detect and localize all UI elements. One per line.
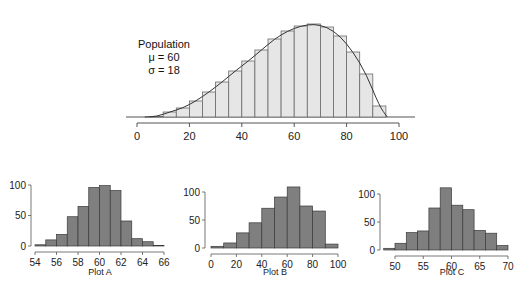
histogram-bar (153, 245, 164, 246)
population-bar (320, 27, 333, 117)
population-bar (229, 71, 242, 117)
y-tick-label: 100 (183, 187, 200, 198)
histogram-bar (211, 246, 224, 248)
population-bar (203, 92, 216, 117)
histogram-bar (429, 208, 440, 250)
histogram-bar (485, 233, 496, 250)
x-tick-label: 80 (307, 259, 319, 270)
population-bar (216, 82, 229, 117)
population-bar (334, 36, 347, 117)
histogram-bar (57, 234, 68, 246)
histogram-bar (67, 217, 78, 246)
histogram-bar (313, 211, 326, 248)
x-tick-label: 40 (236, 130, 248, 142)
histogram-bar (325, 244, 338, 248)
plot-a: 05010054565860626466 (9, 180, 170, 269)
histogram-bar (463, 210, 474, 250)
x-tick-label: 80 (340, 130, 352, 142)
population-bar (347, 52, 360, 117)
histogram-bar (440, 188, 451, 250)
histogram-bar (35, 245, 46, 246)
y-tick-label: 50 (15, 210, 27, 221)
plot-b-title: Plot B (263, 267, 287, 277)
x-tick-label: 58 (72, 257, 84, 268)
histogram-bar (474, 230, 485, 250)
x-tick-label: 60 (288, 130, 300, 142)
histogram-bar (46, 240, 57, 246)
plot-b: 050100020406080100 (183, 187, 346, 271)
histogram-bar (224, 243, 237, 248)
plot-c-title: Plot C (440, 267, 465, 277)
x-tick-label: 100 (330, 259, 347, 270)
histogram-bar (452, 205, 463, 250)
population-bar (360, 74, 373, 117)
population-bar (281, 31, 294, 117)
histogram-bar (275, 197, 288, 248)
y-tick-label: 50 (189, 215, 201, 226)
figure-canvas: 020406080100 Population μ = 60 σ = 18 05… (0, 0, 528, 299)
population-bar (294, 26, 307, 117)
population-bar (268, 39, 281, 117)
x-tick-label: 64 (137, 257, 149, 268)
histogram-bar (406, 233, 417, 250)
population-bar (163, 112, 176, 117)
histogram-bar (249, 223, 262, 248)
histogram-bar (300, 206, 313, 248)
histogram-bar (110, 190, 121, 246)
x-tick-label: 54 (29, 257, 41, 268)
y-tick-label: 100 (358, 189, 375, 200)
population-bar (373, 106, 386, 117)
histogram-bar (100, 186, 111, 246)
x-tick-label: 0 (208, 259, 214, 270)
x-tick-label: 70 (502, 261, 514, 272)
population-x-axis: 020406080100 (134, 123, 408, 142)
population-bar (307, 24, 320, 117)
y-tick-label: 0 (369, 245, 375, 256)
x-tick-label: 65 (474, 261, 486, 272)
plot-a-title: Plot A (88, 267, 112, 277)
x-tick-label: 0 (134, 130, 140, 142)
annotation-sd: σ = 18 (148, 64, 180, 76)
histogram-bar (395, 243, 406, 250)
x-tick-label: 100 (390, 130, 408, 142)
annotation-mean: μ = 60 (148, 51, 179, 63)
x-tick-label: 55 (418, 261, 430, 272)
population-bar (255, 50, 268, 117)
x-tick-label: 66 (158, 257, 170, 268)
plot-c: 0501005055606570 (358, 188, 514, 272)
histogram-bar (236, 233, 249, 248)
annotation-title: Population (138, 38, 190, 50)
histogram-bar (418, 231, 429, 250)
x-tick-label: 20 (231, 259, 243, 270)
histogram-bar (132, 239, 143, 246)
y-tick-label: 0 (20, 241, 26, 252)
y-tick-label: 0 (194, 243, 200, 254)
y-tick-label: 100 (9, 180, 26, 191)
x-tick-label: 56 (51, 257, 63, 268)
histogram-bar (78, 206, 89, 246)
x-tick-label: 20 (183, 130, 195, 142)
histogram-bar (497, 246, 508, 250)
population-annotation: Population μ = 60 σ = 18 (138, 38, 190, 76)
histogram-bar (287, 187, 300, 248)
population-bar (242, 61, 255, 117)
y-tick-label: 50 (364, 217, 376, 228)
histogram-bar (121, 221, 132, 246)
x-tick-label: 62 (115, 257, 127, 268)
histogram-bar (262, 208, 275, 248)
histogram-bar (384, 248, 395, 250)
histogram-bar (89, 187, 100, 246)
histogram-bar (143, 242, 154, 246)
x-tick-label: 50 (389, 261, 401, 272)
